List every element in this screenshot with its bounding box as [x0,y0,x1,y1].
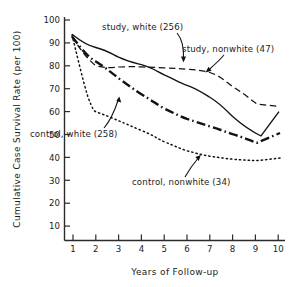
survival-curve-chart: 100 90 80 70 60 50 40 30 20 10 1 [0,0,300,287]
x-tick-label-10: 10 [273,244,284,254]
arrowhead-study-white [181,57,186,63]
y-axis-title: Cumulative Case Survival Rate (per 100) [12,30,22,227]
leader-study-nonwhite [208,55,225,71]
series-label-control-nonwhite: control, nonwhite (34) [132,177,231,187]
x-tick-label-9: 9 [253,244,258,254]
x-tick-label-1: 1 [70,244,75,254]
y-tick-label-90: 90 [49,38,60,48]
y-axis-ticks: 100 90 80 70 60 50 40 30 20 10 [44,15,70,231]
series-label-study-white: study, white (256) [102,22,183,32]
x-axis-ticks: 1 2 3 4 5 6 7 8 9 10 [70,235,283,255]
x-tick-label-4: 4 [139,244,144,254]
y-tick-label-80: 80 [49,61,60,71]
chart-figure: 100 90 80 70 60 50 40 30 20 10 1 [0,0,300,287]
y-tick-label-30: 30 [49,176,60,186]
y-tick-label-40: 40 [49,153,60,163]
x-tick-label-3: 3 [116,244,121,254]
x-tick-label-7: 7 [207,244,212,254]
y-tick-label-100: 100 [44,15,60,25]
leader-control-nonwhite [185,157,199,177]
y-tick-label-60: 60 [49,107,60,117]
x-tick-label-6: 6 [184,244,189,254]
x-tick-label-2: 2 [93,244,98,254]
series-label-study-nonwhite: study, nonwhite (47) [182,44,274,54]
leader-control-white [104,99,119,128]
y-tick-label-20: 20 [49,198,60,208]
x-tick-label-5: 5 [161,244,166,254]
x-tick-label-8: 8 [230,244,235,254]
series-label-control-white: control, white (258) [30,129,118,139]
y-tick-label-10: 10 [49,221,60,231]
x-axis-title: Years of Follow-up [130,267,218,277]
curve-control-nonwhite [72,35,281,160]
y-tick-label-70: 70 [49,84,60,94]
